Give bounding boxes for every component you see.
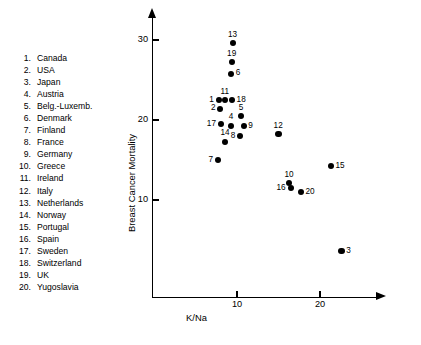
data-point	[298, 189, 304, 195]
x-axis-tick	[319, 291, 320, 297]
data-point-label: 18	[237, 96, 246, 104]
data-point-label: 19	[227, 50, 236, 58]
data-point	[215, 157, 221, 163]
data-point-label: 8	[231, 132, 236, 140]
data-point	[218, 121, 224, 127]
data-point	[237, 133, 243, 139]
data-point-label: 11	[220, 88, 229, 96]
data-point-label: 7	[208, 156, 213, 164]
data-point	[229, 97, 235, 103]
data-point	[275, 131, 281, 137]
data-point	[217, 106, 223, 112]
x-axis-tick-label: 20	[305, 299, 335, 309]
data-point	[216, 97, 222, 103]
y-axis-line	[152, 18, 153, 297]
data-point-label: 14	[220, 129, 229, 137]
y-axis-title: Breast Cancer Mortality	[126, 134, 137, 232]
x-axis-tick	[236, 291, 237, 297]
data-point-label: 6	[236, 69, 241, 77]
x-axis-tick-label: 10	[222, 299, 252, 309]
data-point	[228, 71, 234, 77]
y-axis-tick-label: 20	[122, 114, 148, 124]
data-point-label: 15	[335, 162, 344, 170]
y-axis-tick-label: 30	[122, 34, 148, 44]
data-point	[229, 59, 235, 65]
data-point	[328, 163, 334, 169]
data-point	[222, 97, 228, 103]
data-point-label: 5	[239, 104, 244, 112]
data-point	[238, 113, 244, 119]
scatter-plot-figure: 1.Canada2.USA3.Japan4.Austria5.Belg.-Lux…	[0, 0, 421, 345]
data-point-label: 3	[346, 247, 351, 255]
data-point-label: 10	[284, 171, 293, 179]
x-axis-title: K/Na	[0, 312, 421, 323]
data-point	[230, 40, 236, 46]
plot-area: 102030 1020 1234567891011121314151617181…	[0, 0, 421, 345]
data-point-label: 20	[306, 188, 315, 196]
data-point-label: 4	[229, 113, 234, 121]
data-point-label: 16	[277, 184, 286, 192]
data-point-label: 12	[274, 122, 283, 130]
x-axis-title-text: K/Na	[186, 312, 207, 323]
x-axis-line	[152, 297, 378, 298]
y-axis-tick	[152, 119, 159, 120]
y-axis-tick	[152, 199, 159, 200]
data-point	[241, 123, 247, 129]
data-point	[222, 139, 228, 145]
data-point-label: 2	[211, 104, 216, 112]
data-point-label: 9	[248, 122, 253, 130]
data-point-label: 13	[228, 31, 237, 39]
y-axis-tick	[152, 39, 159, 40]
data-point-label: 17	[207, 120, 216, 128]
data-point	[338, 248, 344, 254]
y-axis-arrow-icon	[148, 8, 156, 18]
x-axis-arrow-icon	[376, 292, 386, 300]
data-point	[288, 185, 294, 191]
